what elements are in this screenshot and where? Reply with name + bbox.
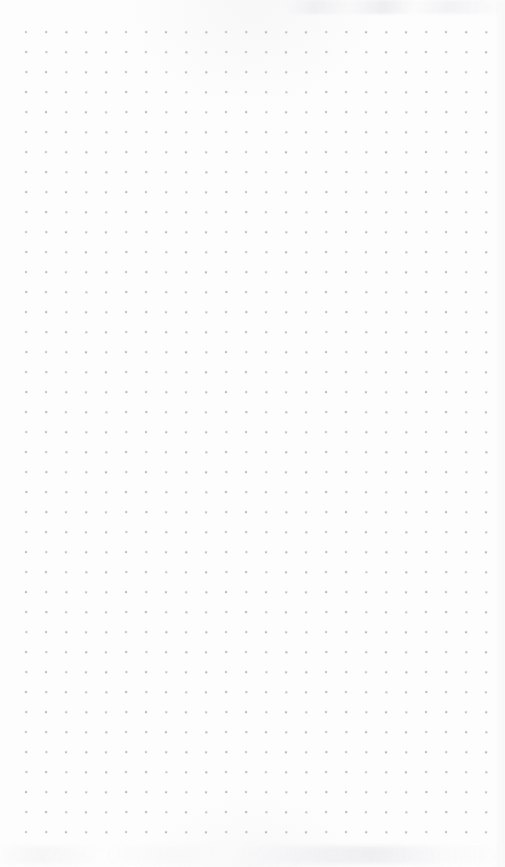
grid-dot xyxy=(305,831,307,833)
grid-dot xyxy=(445,651,447,653)
grid-dot xyxy=(205,751,207,753)
grid-dot xyxy=(225,591,227,593)
grid-dot xyxy=(125,531,127,533)
grid-dot xyxy=(65,571,67,573)
grid-dot xyxy=(45,571,47,573)
grid-dot xyxy=(85,371,87,373)
grid-dot xyxy=(205,551,207,553)
grid-dot xyxy=(365,491,367,493)
grid-dot xyxy=(105,231,107,233)
grid-dot xyxy=(205,571,207,573)
grid-dot xyxy=(305,671,307,673)
grid-dot xyxy=(205,371,207,373)
grid-dot xyxy=(405,51,407,53)
grid-dot xyxy=(425,191,427,193)
grid-dot xyxy=(45,411,47,413)
grid-dot xyxy=(365,31,367,33)
dot-grid xyxy=(0,0,505,867)
grid-dot xyxy=(285,471,287,473)
grid-dot xyxy=(425,411,427,413)
grid-dot xyxy=(105,651,107,653)
grid-dot xyxy=(85,71,87,73)
grid-dot xyxy=(165,831,167,833)
grid-dot xyxy=(465,51,467,53)
grid-dot xyxy=(325,31,327,33)
grid-dot xyxy=(25,191,27,193)
grid-dot xyxy=(105,311,107,313)
grid-dot xyxy=(225,671,227,673)
grid-dot xyxy=(45,651,47,653)
grid-dot xyxy=(165,491,167,493)
grid-dot xyxy=(185,771,187,773)
grid-dot xyxy=(205,91,207,93)
grid-dot xyxy=(405,351,407,353)
grid-dot xyxy=(425,31,427,33)
grid-dot xyxy=(405,711,407,713)
grid-dot xyxy=(225,551,227,553)
grid-dot xyxy=(345,371,347,373)
grid-dot xyxy=(145,691,147,693)
grid-dot xyxy=(365,191,367,193)
grid-dot xyxy=(45,431,47,433)
grid-dot xyxy=(485,831,487,833)
grid-dot xyxy=(185,631,187,633)
grid-dot xyxy=(125,291,127,293)
grid-dot xyxy=(245,651,247,653)
grid-dot xyxy=(125,571,127,573)
grid-dot xyxy=(305,731,307,733)
grid-dot xyxy=(145,91,147,93)
grid-dot xyxy=(105,751,107,753)
grid-dot xyxy=(245,71,247,73)
grid-dot xyxy=(185,691,187,693)
grid-dot xyxy=(405,471,407,473)
grid-dot xyxy=(325,211,327,213)
grid-dot xyxy=(405,751,407,753)
grid-dot xyxy=(65,31,67,33)
grid-dot xyxy=(345,691,347,693)
grid-dot xyxy=(145,171,147,173)
grid-dot xyxy=(165,811,167,813)
grid-dot xyxy=(365,731,367,733)
grid-dot xyxy=(45,351,47,353)
grid-dot xyxy=(105,251,107,253)
grid-dot xyxy=(25,631,27,633)
grid-dot xyxy=(445,591,447,593)
grid-dot xyxy=(105,611,107,613)
grid-dot xyxy=(285,771,287,773)
grid-dot xyxy=(185,191,187,193)
grid-dot xyxy=(365,91,367,93)
grid-dot xyxy=(245,591,247,593)
grid-dot xyxy=(265,511,267,513)
grid-dot xyxy=(365,291,367,293)
grid-dot xyxy=(305,191,307,193)
grid-dot xyxy=(425,331,427,333)
grid-dot xyxy=(265,51,267,53)
grid-dot xyxy=(125,111,127,113)
grid-dot xyxy=(205,651,207,653)
grid-dot xyxy=(325,411,327,413)
grid-dot xyxy=(365,791,367,793)
grid-dot xyxy=(385,171,387,173)
grid-dot xyxy=(185,411,187,413)
grid-dot xyxy=(265,351,267,353)
grid-dot xyxy=(385,151,387,153)
grid-dot xyxy=(145,711,147,713)
grid-dot xyxy=(345,831,347,833)
grid-dot xyxy=(285,731,287,733)
grid-dot xyxy=(345,271,347,273)
grid-dot xyxy=(145,531,147,533)
grid-dot xyxy=(325,51,327,53)
grid-dot xyxy=(445,31,447,33)
grid-dot xyxy=(25,371,27,373)
grid-dot xyxy=(405,811,407,813)
grid-dot xyxy=(425,631,427,633)
grid-dot xyxy=(185,171,187,173)
grid-dot xyxy=(485,471,487,473)
grid-dot xyxy=(85,351,87,353)
grid-dot xyxy=(225,351,227,353)
grid-dot xyxy=(85,451,87,453)
grid-dot xyxy=(185,751,187,753)
grid-dot xyxy=(325,551,327,553)
grid-dot xyxy=(85,411,87,413)
grid-dot xyxy=(465,111,467,113)
